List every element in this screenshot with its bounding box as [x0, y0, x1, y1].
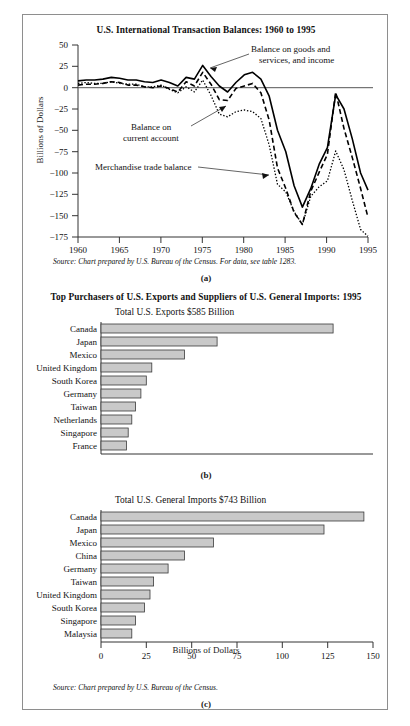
- panel-a-letter: (a): [23, 273, 389, 283]
- svg-text:50: 50: [59, 40, 69, 50]
- bar-mexico: [101, 350, 184, 359]
- svg-text:1970: 1970: [152, 245, 171, 255]
- svg-text:1985: 1985: [276, 245, 295, 255]
- bar-japan: [101, 525, 324, 534]
- panel-b: Total U.S. Exports $585 Billion Canada J…: [23, 307, 389, 472]
- panel-c-subtitle: Total U.S. General Imports $743 Billion: [115, 495, 266, 505]
- series-balance-on-goods-services-income: [78, 65, 368, 207]
- panel-a-y-ticks: 50 25 0 −25 −50 −75 −100 −125 −150 −175: [49, 40, 78, 242]
- panel-b-category-labels: Canada Japan Mexico United Kingdom South…: [36, 324, 97, 451]
- panel-a-source: Source: Chart prepared by U.S. Bureau of…: [53, 257, 296, 266]
- svg-text:1980: 1980: [235, 245, 254, 255]
- panel-b-subtitle: Total U.S. Exports $585 Billion: [115, 307, 234, 317]
- svg-text:1995: 1995: [359, 245, 378, 255]
- panel-c-bars: [101, 512, 364, 638]
- svg-text:−125: −125: [49, 189, 68, 199]
- bar-canada: [101, 512, 364, 521]
- bar-south-korea: [101, 376, 146, 385]
- svg-text:Malaysia: Malaysia: [64, 629, 97, 639]
- bar-china: [101, 551, 184, 560]
- bar-canada: [101, 324, 333, 333]
- svg-text:Mexico: Mexico: [70, 350, 98, 360]
- svg-text:−75: −75: [54, 147, 69, 157]
- panel-c-x-axis-label: Billions of Dollars: [23, 645, 389, 655]
- bar-united-kingdom: [101, 590, 150, 599]
- svg-text:United Kingdom: United Kingdom: [36, 590, 97, 600]
- svg-text:0: 0: [64, 83, 69, 93]
- bar-taiwan: [101, 577, 154, 586]
- figure-frame: U.S. International Transaction Balances:…: [22, 14, 388, 710]
- series-merchandise-trade-balance: [78, 80, 368, 236]
- svg-text:Canada: Canada: [70, 324, 97, 334]
- panel-c-letter: (c): [23, 699, 389, 709]
- svg-text:South Korea: South Korea: [52, 376, 97, 386]
- panel-a: U.S. International Transaction Balances:…: [23, 25, 389, 260]
- panel-b-letter: (b): [23, 470, 389, 480]
- bar-france: [101, 441, 126, 450]
- svg-text:Japan: Japan: [77, 525, 98, 535]
- bar-singapore: [101, 428, 128, 437]
- panel-bc-title: Top Purchasers of U.S. Exports and Suppl…: [23, 292, 389, 302]
- svg-text:Taiwan: Taiwan: [71, 577, 98, 587]
- panel-c: Total U.S. General Imports $743 Billion …: [23, 495, 389, 675]
- svg-text:France: France: [73, 441, 98, 451]
- svg-text:Merchandise trade balance: Merchandise trade balance: [95, 162, 191, 172]
- svg-text:−50: −50: [54, 125, 69, 135]
- svg-text:−150: −150: [49, 211, 68, 221]
- svg-text:−175: −175: [49, 232, 68, 242]
- bar-taiwan: [101, 402, 136, 411]
- panel-b-bars: [101, 324, 333, 450]
- svg-text:Netherlands: Netherlands: [54, 415, 98, 425]
- svg-text:current account: current account: [123, 133, 179, 143]
- svg-text:Taiwan: Taiwan: [71, 402, 98, 412]
- panel-c-source: Source: Chart prepared by U.S. Bureau of…: [53, 683, 218, 692]
- bar-germany: [101, 564, 168, 573]
- panel-c-category-labels: Canada Japan Mexico China Germany Taiwan…: [36, 512, 97, 639]
- svg-text:Balance on: Balance on: [131, 122, 172, 132]
- panel-a-title: U.S. International Transaction Balances:…: [23, 25, 389, 35]
- svg-text:−25: −25: [54, 104, 69, 114]
- annotation-current-account: Balance on current account: [123, 106, 226, 143]
- panel-a-line-chart: 50 25 0 −25 −50 −75 −100 −125 −150 −175: [23, 37, 389, 255]
- annotation-merchandise-trade-balance: Merchandise trade balance: [95, 162, 269, 179]
- bar-singapore: [101, 616, 136, 625]
- svg-text:Singapore: Singapore: [61, 616, 98, 626]
- panel-c-bar-chart: Canada Japan Mexico China Germany Taiwan…: [23, 508, 389, 668]
- svg-text:25: 25: [59, 61, 69, 71]
- svg-text:South Korea: South Korea: [52, 603, 97, 613]
- svg-text:Germany: Germany: [64, 389, 98, 399]
- bar-mexico: [101, 538, 213, 547]
- bar-malaysia: [101, 629, 132, 638]
- svg-text:1975: 1975: [193, 245, 212, 255]
- svg-text:services, and income: services, and income: [259, 55, 334, 65]
- bar-germany: [101, 389, 141, 398]
- bar-south-korea: [101, 603, 145, 612]
- panel-a-x-ticks: 1960 1965 1970 1975 1980 1985 1990 1995: [69, 237, 378, 255]
- svg-text:−100: −100: [49, 168, 68, 178]
- svg-text:Germany: Germany: [64, 564, 98, 574]
- bar-united-kingdom: [101, 363, 152, 372]
- svg-text:China: China: [76, 551, 98, 561]
- panel-b-bar-chart: Canada Japan Mexico United Kingdom South…: [23, 320, 389, 465]
- svg-text:Canada: Canada: [70, 512, 97, 522]
- series-balance-on-current-account: [78, 72, 368, 224]
- bar-japan: [101, 337, 217, 346]
- svg-text:1960: 1960: [69, 245, 88, 255]
- svg-text:Mexico: Mexico: [70, 538, 98, 548]
- annotation-goods-services-income: Balance on goods and services, and incom…: [210, 44, 334, 72]
- bar-netherlands: [101, 415, 132, 424]
- svg-text:1965: 1965: [110, 245, 128, 255]
- svg-text:Japan: Japan: [77, 337, 98, 347]
- svg-text:Singapore: Singapore: [61, 428, 98, 438]
- svg-text:1990: 1990: [318, 245, 337, 255]
- svg-text:United Kingdom: United Kingdom: [36, 363, 97, 373]
- svg-text:Balance on goods and: Balance on goods and: [251, 44, 331, 54]
